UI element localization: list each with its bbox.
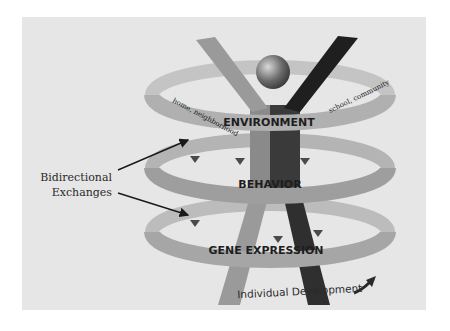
ring-label-environment: ENVIRONMENT — [223, 116, 315, 129]
diagram-canvas: ENVIRONMENT home, neighborhood school, c… — [0, 0, 450, 331]
callout-line-2: Exchanges — [40, 185, 112, 200]
ring-label-gene-expression: GENE EXPRESSION — [208, 244, 323, 257]
ring-label-behavior: BEHAVIOR — [238, 178, 302, 191]
development-label: Individual Development — [237, 282, 363, 301]
callout-label: Bidirectional Exchanges — [40, 170, 112, 200]
callout-line-1: Bidirectional — [40, 170, 112, 185]
figure-head — [256, 55, 290, 89]
